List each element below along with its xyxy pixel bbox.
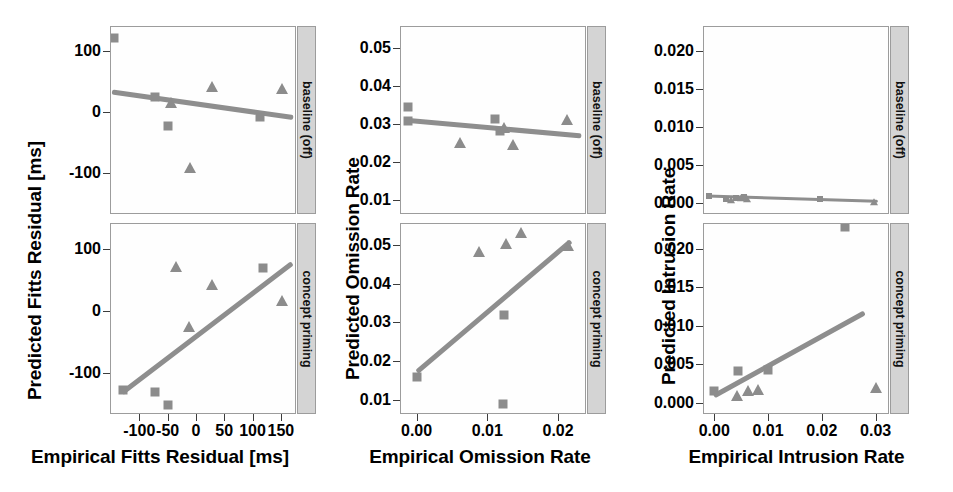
x-axis-tick-label: 0 xyxy=(191,422,200,440)
data-point-square xyxy=(817,196,823,202)
y-axis-tick xyxy=(393,48,400,49)
y-axis-tick xyxy=(103,373,110,374)
y-axis-tick xyxy=(393,200,400,201)
data-point-triangle xyxy=(561,114,573,125)
data-point-square xyxy=(119,386,128,395)
data-point-triangle xyxy=(507,139,519,150)
y-axis-tick xyxy=(696,326,703,327)
data-point-square xyxy=(258,263,267,272)
y-axis-tick xyxy=(393,400,400,401)
y-axis-tick-label: 100 xyxy=(74,240,101,258)
facet-strip-intrusion-concept: concept priming xyxy=(890,223,909,414)
y-axis-tick-label: 0 xyxy=(92,103,101,121)
x-axis-tick-label: 0.03 xyxy=(860,422,891,440)
y-axis-tick-label: 0.05 xyxy=(360,236,391,254)
y-axis-tick-label: 0.03 xyxy=(360,313,391,331)
y-axis-tick xyxy=(696,203,703,204)
x-axis-tick-label: 0.01 xyxy=(752,422,783,440)
x-axis-tick xyxy=(768,414,769,421)
data-point-square xyxy=(404,102,413,111)
y-axis-tick xyxy=(696,165,703,166)
data-point-triangle xyxy=(743,195,751,202)
facet-strip-label: baseline (off) xyxy=(893,81,907,159)
data-point-triangle xyxy=(473,246,485,257)
data-point-triangle xyxy=(206,279,218,290)
panel-fitts-baseline xyxy=(110,26,296,214)
plot-area-intrusion-baseline xyxy=(704,27,888,213)
panel-fitts-concept xyxy=(110,223,296,414)
data-point-square xyxy=(764,365,773,374)
facet-strip-fitts-baseline: baseline (off) xyxy=(297,26,316,214)
data-point-triangle xyxy=(276,295,288,306)
plot-area-fitts-baseline xyxy=(111,27,295,213)
y-axis-tick-label: 0.05 xyxy=(360,39,391,57)
y-axis-tick xyxy=(103,173,110,174)
y-axis-tick xyxy=(393,322,400,323)
data-point-square xyxy=(840,224,849,232)
x-axis-title-fitts: Empirical Fitts Residual [ms] xyxy=(0,446,320,468)
data-point-triangle xyxy=(454,137,466,148)
plot-area-omission-baseline xyxy=(401,27,585,213)
y-axis-tick-label: 0.01 xyxy=(360,191,391,209)
data-point-triangle xyxy=(562,240,574,251)
facet-strip-label: baseline (off) xyxy=(300,81,314,159)
panel-omission-baseline xyxy=(400,26,586,214)
regression-line-intrusion-concept xyxy=(713,311,866,399)
y-axis-tick xyxy=(103,311,110,312)
x-axis-title-omission: Empirical Omission Rate xyxy=(320,446,640,468)
y-axis-tick-label: 0 xyxy=(92,302,101,320)
data-point-triangle xyxy=(500,238,512,249)
y-axis-tick xyxy=(696,364,703,365)
data-point-triangle xyxy=(870,199,878,206)
regression-line-fitts-baseline xyxy=(112,90,294,121)
x-axis-tick-label: 50 xyxy=(215,422,233,440)
y-axis-tick-label: 0.000 xyxy=(654,194,694,212)
data-point-square xyxy=(151,387,160,396)
x-axis-tick xyxy=(224,414,225,421)
x-axis-tick-label: 150 xyxy=(267,422,294,440)
y-axis-tick xyxy=(393,361,400,362)
data-point-square xyxy=(500,311,509,320)
y-axis-tick-label: 0.015 xyxy=(654,80,694,98)
y-axis-tick xyxy=(393,124,400,125)
facet-strip-omission-baseline: baseline (off) xyxy=(587,26,606,214)
x-axis-tick-label: 0.01 xyxy=(472,422,503,440)
data-point-square xyxy=(111,33,118,42)
y-axis-tick-label: 0.02 xyxy=(360,153,391,171)
x-axis-tick xyxy=(417,414,418,421)
data-point-square xyxy=(734,366,743,375)
data-point-triangle xyxy=(752,384,764,395)
x-axis-tick-label: 0.00 xyxy=(401,422,432,440)
data-point-triangle xyxy=(498,122,510,133)
y-axis-tick-label: 0.010 xyxy=(654,317,694,335)
y-axis-tick xyxy=(103,112,110,113)
y-axis-tick xyxy=(696,127,703,128)
data-point-square xyxy=(163,400,172,409)
y-axis-tick xyxy=(696,249,703,250)
y-axis-tick-label: 0.010 xyxy=(654,118,694,136)
y-axis-tick xyxy=(393,162,400,163)
y-axis-tick-label: 0.005 xyxy=(654,355,694,373)
scatter-figure-grid: Predicted Fitts Residual [ms] Empirical … xyxy=(0,0,953,492)
y-axis-tick xyxy=(393,86,400,87)
y-axis-tick xyxy=(696,51,703,52)
x-axis-tick-label: 0.02 xyxy=(806,422,837,440)
y-axis-tick xyxy=(696,403,703,404)
x-axis-tick xyxy=(253,414,254,421)
y-axis-tick-label: 0.04 xyxy=(360,77,391,95)
x-axis-tick-label: 0.02 xyxy=(543,422,574,440)
y-axis-tick-label: 0.04 xyxy=(360,275,391,293)
facet-strip-label: baseline (off) xyxy=(590,81,604,159)
y-axis-tick-label: 0.005 xyxy=(654,156,694,174)
data-point-triangle xyxy=(184,162,196,173)
y-axis-tick-label: 0.02 xyxy=(360,352,391,370)
y-axis-title-fitts: Predicted Fitts Residual [ms] xyxy=(24,141,46,400)
y-axis-tick-label: 0.020 xyxy=(654,42,694,60)
x-axis-tick xyxy=(196,414,197,421)
x-axis-tick xyxy=(714,414,715,421)
y-axis-tick-label: 0.020 xyxy=(654,240,694,258)
x-axis-tick xyxy=(139,414,140,421)
data-point-triangle xyxy=(727,196,735,203)
facet-strip-label: concept priming xyxy=(590,270,604,367)
data-point-square xyxy=(163,122,172,131)
